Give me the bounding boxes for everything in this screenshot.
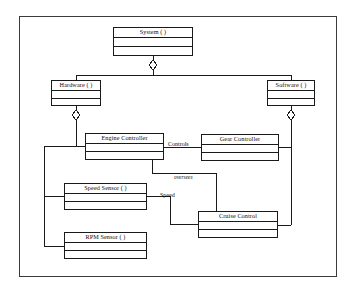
class-attributes-rpm-sensor: [65, 243, 146, 251]
class-box-engine-controller[interactable]: Engine Controller: [85, 133, 164, 160]
class-operations-engine-controller: [86, 152, 163, 159]
class-operations-hardware: [52, 99, 100, 106]
class-attributes-system: [114, 38, 192, 47]
class-name-speed-sensor: Speed Sensor ( ): [65, 184, 146, 194]
class-attributes-hardware: [52, 91, 100, 99]
class-attributes-cruise-control: [199, 222, 277, 230]
class-operations-rpm-sensor: [65, 251, 146, 258]
class-box-cruise-control[interactable]: Cruise Control: [198, 211, 278, 238]
class-box-speed-sensor[interactable]: Speed Sensor ( ): [64, 183, 147, 210]
class-box-gear-controller[interactable]: Gear Controller: [201, 134, 279, 161]
class-operations-cruise-control: [199, 230, 277, 237]
class-name-system: System ( ): [114, 28, 192, 38]
class-box-rpm-sensor[interactable]: RPM Sensor ( ): [64, 232, 147, 259]
edge-label-oversees: oversees: [174, 175, 193, 180]
class-operations-speed-sensor: [65, 202, 146, 209]
class-name-rpm-sensor: RPM Sensor ( ): [65, 233, 146, 243]
class-box-system[interactable]: System ( ): [113, 27, 193, 56]
class-operations-software: [268, 99, 314, 106]
class-name-engine-controller: Engine Controller: [86, 134, 163, 144]
class-attributes-software: [268, 91, 314, 99]
class-name-gear-controller: Gear Controller: [202, 135, 278, 145]
class-box-software[interactable]: Software ( ): [267, 80, 315, 106]
class-name-software: Software ( ): [268, 81, 314, 91]
class-operations-system: [114, 47, 192, 55]
class-name-hardware: Hardware ( ): [52, 81, 100, 91]
class-operations-gear-controller: [202, 153, 278, 160]
class-box-hardware[interactable]: Hardware ( ): [51, 80, 101, 106]
diagram-canvas: System ( ) Hardware ( ) Software ( ) Eng…: [0, 0, 353, 294]
edge-label-speed: Speed: [160, 192, 175, 198]
class-attributes-gear-controller: [202, 145, 278, 153]
class-name-cruise-control: Cruise Control: [199, 212, 277, 222]
class-attributes-speed-sensor: [65, 194, 146, 202]
class-attributes-engine-controller: [86, 144, 163, 152]
edge-label-controls: Controls: [168, 141, 189, 147]
